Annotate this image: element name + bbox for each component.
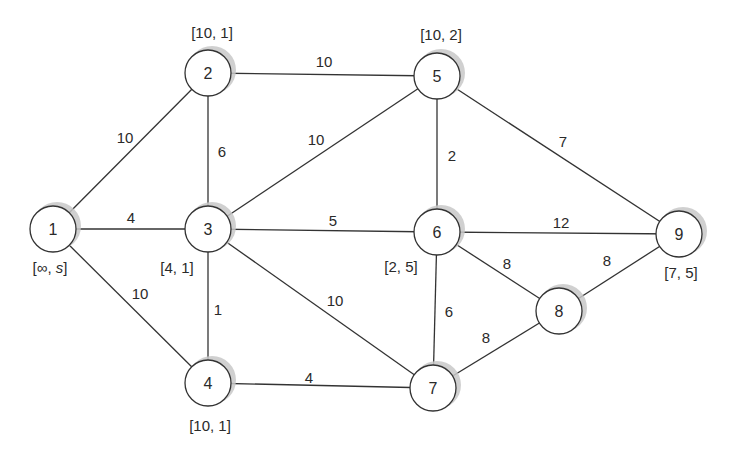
edge-weight-7-8: 8 <box>482 330 490 345</box>
node-label-2: [10, 1] <box>191 25 233 40</box>
node-label-1: [∞, s] <box>33 260 68 275</box>
source-marker: s <box>56 259 64 276</box>
node-number-2: 2 <box>204 66 213 81</box>
node-number-4: 4 <box>204 376 213 391</box>
node-label-9: [7, 5] <box>664 265 697 280</box>
node-label-5: [10, 2] <box>420 27 462 42</box>
edge-weight-6-9: 12 <box>553 215 570 230</box>
graph-diagram: 104101061051104271286881[∞, s]2[10, 1]3[… <box>0 0 733 452</box>
edge-weight-2-5: 10 <box>316 54 333 69</box>
edge-weight-4-7: 4 <box>305 370 313 385</box>
edge-weight-2-3: 6 <box>218 144 226 159</box>
edge-weight-3-7: 10 <box>327 293 344 308</box>
edge-weight-1-2: 10 <box>117 130 134 145</box>
edge-weight-5-9: 7 <box>559 134 567 149</box>
node-label-6: [2, 5] <box>384 259 417 274</box>
nodes-layer <box>0 0 733 452</box>
node-number-9: 9 <box>675 227 684 242</box>
node-number-3: 3 <box>204 222 213 237</box>
edge-weight-3-4: 1 <box>214 302 222 317</box>
edge-weight-1-4: 10 <box>132 286 149 301</box>
edge-weight-8-9: 8 <box>603 253 611 268</box>
node-label-4: [10, 1] <box>189 418 231 433</box>
edge-weight-6-8: 8 <box>503 256 511 271</box>
edge-weight-5-6: 2 <box>448 148 456 163</box>
node-number-5: 5 <box>433 69 442 84</box>
node-number-1: 1 <box>49 222 58 237</box>
edge-weight-6-7: 6 <box>445 304 453 319</box>
edge-weight-3-5: 10 <box>308 132 325 147</box>
node-number-8: 8 <box>555 304 564 319</box>
node-number-6: 6 <box>433 225 442 240</box>
node-label-3: [4, 1] <box>160 260 193 275</box>
node-number-7: 7 <box>429 381 438 396</box>
edge-weight-3-6: 5 <box>329 213 337 228</box>
edge-weight-1-3: 4 <box>127 210 135 225</box>
